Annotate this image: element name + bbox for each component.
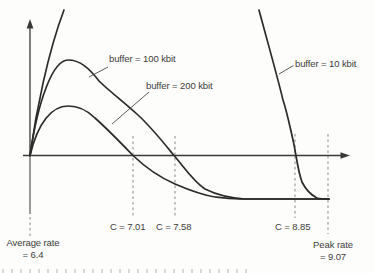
curve-label-buffer-10: buffer = 10 kbit [295, 58, 356, 69]
average-rate-label: Average rate = 6.4 [1, 237, 65, 261]
cropped-caption-fragment [2, 269, 252, 273]
curve-buffer-200 [30, 106, 329, 199]
peak-rate-label: Peak rate = 9.07 [306, 239, 360, 263]
capacity-label-c-8-85: C = 8.85 [275, 221, 310, 232]
traffic-shaping-figure: buffer = 100 kbit buffer = 200 kbit buff… [0, 0, 375, 273]
average-rate-label-line1: Average rate [1, 237, 65, 249]
curve-label-buffer-200: buffer = 200 kbit [146, 80, 213, 91]
curve-buffer-10-falling [259, 10, 329, 199]
curve-label-buffer-100: buffer = 100 kbit [109, 53, 176, 64]
capacity-label-c-7-58: C = 7.58 [156, 221, 191, 232]
x-axis-arrowhead [341, 152, 351, 159]
average-rate-label-line2: = 6.4 [1, 249, 65, 261]
curve-buffer-10-rising [30, 10, 64, 156]
chart-canvas [0, 0, 375, 273]
capacity-label-c-7-01: C = 7.01 [110, 221, 145, 232]
leader-buffer-10 [279, 66, 294, 75]
peak-rate-label-line1: Peak rate [306, 239, 360, 251]
peak-rate-label-line2: = 9.07 [306, 251, 360, 263]
